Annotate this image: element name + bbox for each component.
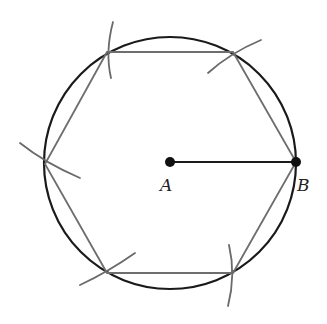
point-label-a: A [158, 175, 172, 195]
point-a [165, 157, 175, 167]
hexagon-construction-diagram: AB [0, 0, 327, 324]
point-label-b: B [296, 175, 310, 195]
point-b [291, 157, 301, 167]
compass-arcs-group [20, 22, 261, 306]
